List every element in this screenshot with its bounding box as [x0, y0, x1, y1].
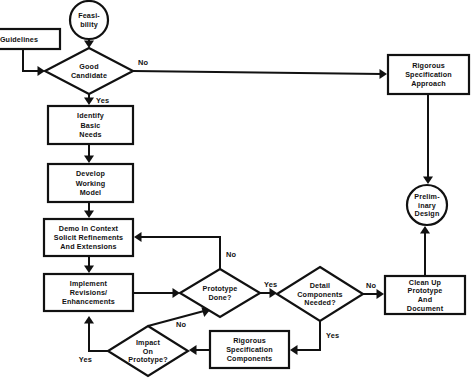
edge-rigorous-approach-to-preliminary-design-arrowhead-icon	[423, 177, 433, 185]
process-implement-revisions-label-line: Enhancements	[62, 297, 115, 306]
edge-develop-model-to-demo-in-context	[84, 202, 94, 218]
process-develop-working-model[interactable]: DevelopWorkingModel	[48, 164, 133, 202]
edge-detail-components-no-to-clean-up-arrowhead-icon	[377, 289, 385, 299]
process-guidelines-label: Guidelines	[0, 35, 38, 44]
decision-good-candidate-label-line: Candidate	[71, 71, 107, 80]
edge-detail-components-no-to-clean-up-label: No	[366, 281, 376, 290]
edge-identify-needs-to-develop-model-arrowhead-icon	[84, 156, 94, 164]
process-implement-revisions-label: ImplementRevisions/Enhancements	[62, 279, 115, 306]
edge-clean-up-to-preliminary-design-arrowhead-icon	[420, 226, 430, 234]
edge-impact-yes-to-implement-revisions-line	[89, 322, 108, 351]
edge-impact-yes-to-implement-revisions: Yes	[79, 316, 108, 364]
decision-detail-components-needed[interactable]: DetailComponentsNeeded?	[277, 267, 363, 321]
process-develop-working-model-label: DevelopWorkingModel	[76, 169, 106, 196]
terminator-feasibility[interactable]: Feasi-bility	[70, 1, 108, 39]
edge-feasibility-to-good-candidate	[84, 39, 94, 48]
process-rigorous-specification-approach-label: RigorousSpecificationApproach	[405, 61, 452, 88]
process-demo-in-context[interactable]: Demo In ContextSolicit RefinementsAnd Ex…	[44, 219, 133, 256]
edge-impact-yes-to-implement-revisions-label: Yes	[79, 355, 92, 364]
process-rigorous-specification-approach[interactable]: RigorousSpecificationApproach	[388, 55, 469, 94]
edge-impact-no-to-prototype-done-label: No	[176, 320, 186, 329]
process-demo-in-context-label-line: Demo In Context	[59, 224, 119, 233]
process-develop-working-model-label-line: Working	[76, 179, 106, 188]
edge-good-candidate-yes-to-identify-needs-label: Yes	[96, 96, 109, 105]
process-implement-revisions[interactable]: ImplementRevisions/Enhancements	[44, 274, 133, 311]
terminator-preliminary-design[interactable]: Prelim-inaryDesign	[407, 185, 447, 225]
terminator-preliminary-design-label-line: Design	[415, 209, 440, 218]
edge-prototype-done-yes-to-detail-components: Yes	[260, 280, 277, 298]
process-clean-up-prototype-label-line: Document	[407, 304, 444, 313]
edge-detail-components-no-to-clean-up: No	[363, 281, 384, 299]
process-rigorous-specification-approach-label-line: Approach	[411, 79, 446, 88]
edge-good-candidate-no-to-rigorous-approach: No	[133, 58, 387, 79]
edge-good-candidate-no-to-rigorous-approach-arrowhead-icon	[380, 69, 388, 79]
terminator-feasibility-label: Feasi-bility	[78, 11, 100, 29]
edge-guidelines-to-good-candidate-line	[23, 49, 39, 71]
node-layer: Feasi-bilityGuidelinesGoodCandidateIdent…	[0, 1, 469, 376]
decision-impact-on-prototype-label-line: Impact	[136, 338, 161, 347]
process-guidelines[interactable]: Guidelines	[0, 29, 60, 49]
decision-prototype-done[interactable]: PrototypeDone?	[180, 269, 260, 317]
decision-prototype-done-label-line: Prototype	[203, 284, 238, 293]
decision-detail-components-needed-label-line: Components	[297, 290, 342, 299]
process-rigorous-specification-approach-label-line: Specification	[405, 70, 452, 79]
edge-good-candidate-no-to-rigorous-approach-line	[133, 71, 382, 74]
process-identify-basic-needs-label: IdentifyBasicNeeds	[77, 111, 104, 138]
edge-implement-revisions-to-prototype-done	[133, 288, 180, 298]
process-identify-basic-needs[interactable]: IdentifyBasicNeeds	[48, 106, 133, 144]
edge-prototype-done-no-to-demo-line	[139, 237, 220, 269]
edge-prototype-done-no-to-demo-arrowhead-icon	[134, 232, 142, 242]
edge-good-candidate-yes-to-identify-needs-arrowhead-icon	[84, 98, 94, 106]
edge-prototype-done-yes-to-detail-components-arrowhead-icon	[270, 288, 278, 298]
edge-identify-needs-to-develop-model	[84, 144, 94, 163]
process-identify-basic-needs-label-line: Basic	[81, 121, 101, 130]
edge-develop-model-to-demo-in-context-arrowhead-icon	[84, 211, 94, 219]
edge-rigorous-components-to-impact-on-prototype	[189, 345, 210, 355]
decision-prototype-done-label-line: Done?	[208, 293, 231, 302]
edge-detail-components-yes-to-rigorous-components-label: Yes	[326, 331, 339, 340]
edge-demo-to-implement-revisions-arrowhead-icon	[84, 266, 94, 274]
edge-rigorous-approach-to-preliminary-design	[423, 94, 433, 184]
process-rigorous-specification-approach-label-line: Rigorous	[412, 61, 445, 70]
process-implement-revisions-label-line: Revisions/	[70, 288, 107, 297]
process-identify-basic-needs-label-line: Needs	[79, 130, 101, 139]
decision-impact-on-prototype-label-line: Prototype?	[128, 355, 167, 364]
edge-prototype-done-yes-to-detail-components-label: Yes	[264, 280, 277, 289]
process-guidelines-label-line: Guidelines	[0, 35, 38, 44]
edge-prototype-done-no-to-demo-label: No	[226, 250, 236, 259]
terminator-feasibility-label-line: bility	[80, 20, 98, 29]
edge-impact-yes-to-implement-revisions-arrowhead-icon	[84, 316, 94, 324]
process-clean-up-prototype[interactable]: Clean UpPrototypeAndDocument	[385, 276, 465, 314]
process-clean-up-prototype-label: Clean UpPrototypeAndDocument	[407, 278, 444, 313]
edge-clean-up-to-preliminary-design	[420, 226, 430, 276]
process-demo-in-context-label-line: Solicit Refinements	[54, 233, 124, 242]
process-develop-working-model-label-line: Develop	[76, 169, 105, 178]
decision-good-candidate[interactable]: GoodCandidate	[45, 48, 133, 94]
edge-impact-no-to-prototype-done: No	[148, 307, 210, 329]
decision-detail-components-needed-label-line: Needed?	[304, 298, 335, 307]
edge-detail-components-yes-to-rigorous-components-arrowhead-icon	[290, 345, 298, 355]
edge-rigorous-components-to-impact-on-prototype-arrowhead-icon	[189, 345, 197, 355]
edge-prototype-done-no-to-demo: No	[134, 232, 236, 269]
edge-demo-to-implement-revisions	[84, 256, 94, 273]
edge-good-candidate-no-to-rigorous-approach-label: No	[138, 58, 148, 67]
flowchart-svg: NoYesNoYesNoYesNoYesFeasi-bilityGuidelin…	[0, 0, 474, 379]
process-rigorous-specification-components-label-line: Components	[227, 354, 272, 363]
decision-impact-on-prototype[interactable]: ImpactOnPrototype?	[108, 326, 188, 376]
process-develop-working-model-label-line: Model	[80, 188, 102, 197]
process-identify-basic-needs-label-line: Identify	[77, 111, 104, 120]
edge-good-candidate-yes-to-identify-needs: Yes	[84, 94, 109, 105]
decision-detail-components-needed-label-line: Detail	[310, 281, 330, 290]
process-rigorous-specification-components-label-line: Specification	[226, 345, 273, 354]
process-demo-in-context-label: Demo In ContextSolicit RefinementsAnd Ex…	[54, 224, 124, 251]
decision-good-candidate-label-line: Good	[79, 62, 98, 71]
process-rigorous-specification-components[interactable]: RigorousSpecificationComponents	[210, 331, 289, 368]
process-rigorous-specification-components-label: RigorousSpecificationComponents	[226, 336, 273, 363]
edge-detail-components-yes-to-rigorous-components: Yes	[290, 321, 339, 355]
flowchart-canvas: NoYesNoYesNoYesNoYesFeasi-bilityGuidelin…	[0, 0, 474, 379]
process-rigorous-specification-components-label-line: Rigorous	[233, 336, 266, 345]
decision-impact-on-prototype-label-line: On	[143, 347, 153, 356]
process-demo-in-context-label-line: And Extensions	[60, 242, 116, 251]
process-implement-revisions-label-line: Implement	[70, 279, 108, 288]
edge-detail-components-yes-to-rigorous-components-line	[296, 321, 320, 350]
